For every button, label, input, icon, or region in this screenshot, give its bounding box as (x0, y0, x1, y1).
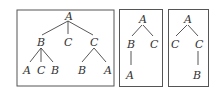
tree-1-leaf-a2: A (103, 64, 112, 77)
tree-diagrams: A B C C A C B B A A B C A A C C B (0, 0, 220, 94)
tree-2-root: A (138, 13, 147, 26)
tree-2-leaf-a: A (125, 69, 134, 82)
tree-1-node-b: B (36, 36, 45, 49)
tree-1: A B C C A C B B A (17, 10, 114, 86)
tree-2-node-b: B (126, 38, 135, 51)
tree-1-node-c1: C (64, 36, 73, 49)
tree-3-node-c1: C (171, 38, 180, 51)
tree-1-leaf-b: B (50, 64, 59, 77)
tree-1-root: A (64, 10, 73, 23)
tree-3-root: A (183, 13, 192, 26)
tree-1-leaf-b2: B (77, 64, 86, 77)
tree-2: A B C A (120, 10, 163, 87)
tree-3: A C C B (169, 10, 209, 87)
tree-2-node-c: C (150, 38, 159, 51)
tree-3-leaf-b: B (192, 69, 201, 82)
tree-1-leaf-a: A (22, 64, 31, 77)
tree-1-leaf-c: C (37, 64, 46, 77)
tree-1-node-c2: C (90, 36, 99, 49)
tree-3-node-c2: C (195, 38, 204, 51)
